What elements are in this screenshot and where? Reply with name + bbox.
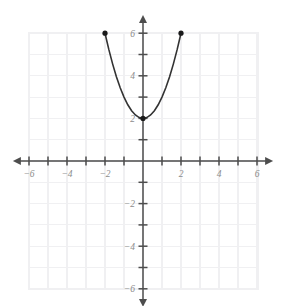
curve-endpoint-dot [140, 116, 145, 121]
y-axis-arrow-up [139, 15, 147, 23]
x-tick-label: −2 [99, 169, 110, 179]
curve-endpoint-dot [102, 31, 107, 36]
x-tick-label: 2 [179, 169, 184, 179]
curve-endpoint-dot [178, 31, 183, 36]
y-tick-label: 6 [130, 29, 135, 39]
x-axis-arrow-left [13, 157, 21, 165]
y-tick-label: 2 [130, 114, 135, 124]
y-axis-arrow-down [139, 299, 147, 306]
x-tick-label: −6 [23, 169, 34, 179]
graph-canvas: −6−4−2246642−2−4−6 [0, 0, 287, 306]
y-tick-label: −4 [124, 242, 135, 252]
x-tick-label: 4 [217, 169, 222, 179]
y-tick-label: −2 [124, 199, 135, 209]
x-tick-label: −4 [61, 169, 72, 179]
coordinate-plane-figure: −6−4−2246642−2−4−6 [0, 0, 287, 306]
y-tick-label: −6 [124, 284, 135, 294]
axes [13, 15, 273, 306]
x-tick-label: 6 [255, 169, 260, 179]
x-axis-arrow-right [265, 157, 273, 165]
y-tick-label: 4 [130, 71, 135, 81]
